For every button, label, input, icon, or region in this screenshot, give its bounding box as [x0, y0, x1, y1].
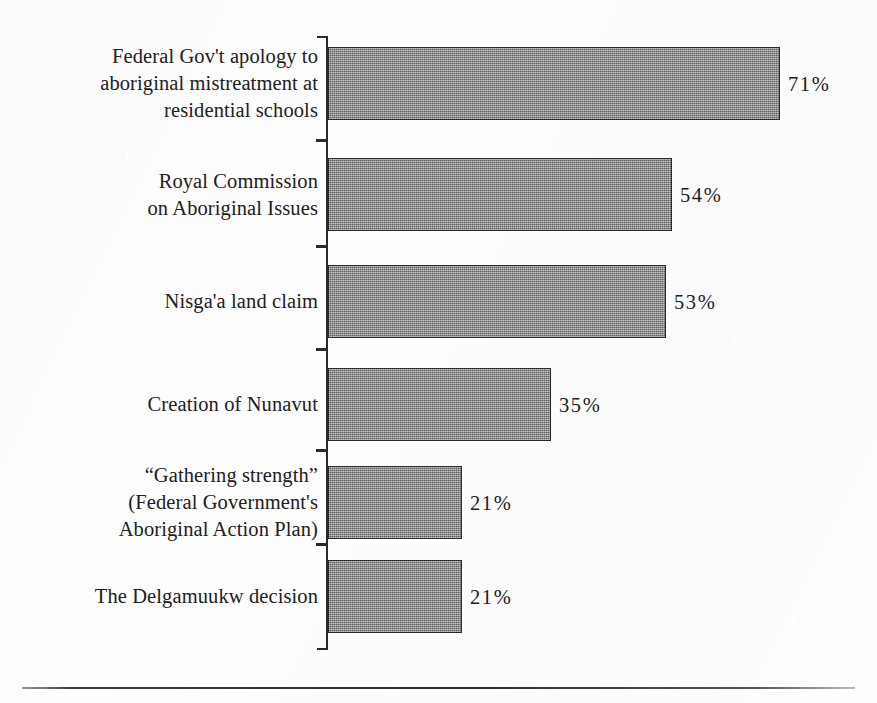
category-label: The Delgamuukw decision — [18, 583, 318, 610]
category-label: Royal Commissionon Aboriginal Issues — [18, 168, 318, 222]
footer-rule — [22, 687, 855, 689]
bar — [328, 368, 551, 441]
category-label-line: Federal Gov't apology to — [18, 43, 318, 70]
category-axis — [326, 36, 328, 650]
bar-value-label: 54% — [680, 185, 722, 205]
bar — [328, 158, 672, 231]
bar-value-label: 71% — [788, 74, 830, 94]
chart-page: Federal Gov't apology toaboriginal mistr… — [0, 0, 877, 703]
category-label-line: Nisga'a land claim — [18, 288, 318, 315]
bar-value-label: 21% — [470, 587, 512, 607]
axis-tick-1 — [316, 139, 328, 142]
bar-value-label: 21% — [470, 493, 512, 513]
axis-cap-top — [317, 36, 328, 38]
bar — [328, 47, 780, 120]
category-label-line: Royal Commission — [18, 168, 318, 195]
bar-value-label: 35% — [559, 395, 601, 415]
category-label: “Gathering strength”(Federal Government'… — [18, 462, 318, 543]
category-label-line: Aboriginal Action Plan) — [18, 516, 318, 543]
axis-tick-2 — [316, 245, 328, 248]
category-label-line: The Delgamuukw decision — [18, 583, 318, 610]
axis-cap-bottom — [317, 648, 328, 650]
axis-tick-5 — [316, 543, 328, 546]
axis-tick-3 — [316, 348, 328, 351]
category-label-line: on Aboriginal Issues — [18, 195, 318, 222]
category-label-line: aboriginal mistreatment at — [18, 70, 318, 97]
bar — [328, 265, 666, 338]
bar — [328, 466, 462, 539]
bar-value-label: 53% — [674, 292, 716, 312]
axis-tick-4 — [316, 449, 328, 452]
category-label: Federal Gov't apology toaboriginal mistr… — [18, 43, 318, 124]
category-label-line: residential schools — [18, 97, 318, 124]
category-label: Nisga'a land claim — [18, 288, 318, 315]
category-label-line: Creation of Nunavut — [18, 391, 318, 418]
bar — [328, 560, 462, 633]
bar-chart: Federal Gov't apology toaboriginal mistr… — [0, 0, 877, 660]
category-label-line: (Federal Government's — [18, 489, 318, 516]
category-label: Creation of Nunavut — [18, 391, 318, 418]
category-label-line: “Gathering strength” — [18, 462, 318, 489]
